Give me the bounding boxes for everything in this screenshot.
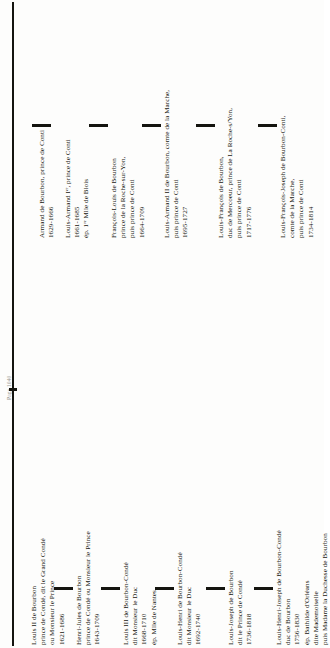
entry-line: 1692-1740	[194, 552, 203, 645]
entry-line: dit Monsieur le Duc	[131, 562, 140, 645]
entry-francois-louis-de-bourbon: François-Louis de Bourbon prince de la R…	[110, 157, 147, 238]
entry-line: Louis-François de Bourbon,	[217, 108, 226, 238]
entry-line: Louis-Armand II de Bourbon, comte de la …	[163, 90, 172, 238]
entry-line: 1661-1685	[73, 139, 82, 238]
entry-armand-de-bourbon: Armand de Bourbon, prince de Conti 1629-…	[38, 130, 56, 238]
connector-conti-2	[89, 124, 108, 127]
entry-line: Louis II de Bourbon	[30, 538, 39, 645]
connector-conti-3	[142, 124, 161, 127]
entry-line: 1664-1709	[138, 157, 147, 238]
entry-louis-henri-joseph-de-bourbon-conde: Louis-Henri-Joseph de Bourbon-Condé duc …	[275, 530, 330, 645]
entry-line: 1629-1666	[47, 130, 56, 238]
entry-line: comte de la Marche,	[288, 116, 297, 238]
entry-line: puis prince de Conti	[128, 157, 137, 238]
entry-line: prince de Condé, dit le Grand Condé	[39, 538, 48, 645]
entry-line: dit Monsieur le Duc	[185, 552, 194, 645]
entry-line: dit le Prince de Condé	[236, 570, 245, 645]
entry-louis-francois-joseph: Louis-François-Joseph de Bourbon-Conti, …	[279, 116, 316, 238]
connector-conti-1	[32, 124, 51, 127]
connector-conde-2	[101, 587, 120, 590]
entry-louis-henri-de-bourbon-conde: Louis-Henri de Bourbon-Condé dit Monsieu…	[176, 552, 204, 645]
entry-line: 1695-1727	[181, 90, 190, 238]
connector-conti-5	[258, 124, 277, 127]
entry-line: ou Monsieur le Prince	[48, 538, 57, 645]
entry-line: 1668-1710	[140, 562, 149, 645]
connector-conde-3	[155, 587, 174, 590]
entry-line: Louis-Henri de Bourbon-Condé	[176, 552, 185, 645]
entry-line: Louis III de Bourbon-Condé	[122, 562, 131, 645]
entry-louis-armand-ii: Louis-Armand II de Bourbon, comte de la …	[163, 90, 191, 238]
tree-spine-stub	[9, 388, 17, 391]
entry-line: François-Louis de Bourbon	[110, 157, 119, 238]
entry-louis-iii-de-bourbon-conde: Louis III de Bourbon-Condé dit Monsieur …	[122, 562, 159, 645]
connector-conti-4	[196, 124, 215, 127]
connector-conde-1	[54, 587, 73, 590]
entry-line: Louis-François-Joseph de Bourbon-Conti,	[279, 116, 288, 238]
entry-henri-jules-de-bourbon: Henri-Jules de Bourbon prince de Condé o…	[75, 531, 103, 645]
entry-line: Henri-Jules de Bourbon	[75, 531, 84, 645]
entry-line: prince de Condé ou Monsieur le Prince	[84, 531, 93, 645]
connector-conde-5	[254, 587, 273, 590]
entry-line: 1734-1814	[307, 116, 316, 238]
entry-line: duc de Mercoeur, prince de La Roche-s/Yo…	[226, 108, 235, 238]
entry-line: duc de Bourbon	[284, 530, 293, 645]
entry-line: dite Mademoiselle	[312, 530, 321, 645]
entry-louis-ii-de-bourbon: Louis II de Bourbon prince de Condé, dit…	[30, 538, 67, 645]
entry-line: Louis-Joseph de Bourbon	[227, 570, 236, 645]
entry-line: 1717-1776	[245, 108, 254, 238]
entry-line: ép. 1ʳᵉ Mlle de Blois	[82, 139, 91, 238]
entry-line: 1756-1830	[293, 530, 302, 645]
entry-line: Louis-Armand Iᵉʳ, prince de Conti	[64, 139, 73, 238]
entry-line: 1736-1818	[245, 570, 254, 645]
entry-line: ép. Mlle de Nantes	[150, 562, 159, 645]
entry-louis-joseph-de-bourbon: Louis-Joseph de Bourbon dit le Prince de…	[227, 570, 255, 645]
entry-line: puis prince de Conti	[235, 108, 244, 238]
entry-louis-armand-i: Louis-Armand Iᵉʳ, prince de Conti 1661-1…	[64, 139, 92, 238]
entry-line: puis prince de Conti	[297, 116, 306, 238]
entry-louis-francois-de-bourbon: Louis-François de Bourbon, duc de Mercoe…	[217, 108, 254, 238]
entry-line: prince de la Roche-sur-Yon,	[119, 157, 128, 238]
entry-line: Armand de Bourbon, prince de Conti	[38, 130, 47, 238]
entry-line: puis Madame la Duchesse de Bourbon	[321, 530, 330, 645]
entry-line: puis prince de Conti	[172, 90, 181, 238]
entry-line: ép. Bathilde d'Orléans	[303, 530, 312, 645]
connector-conde-4	[206, 587, 225, 590]
entry-line: 1621-1686	[58, 538, 67, 645]
tree-spine	[12, 2, 14, 646]
entry-line: Louis-Henri-Joseph de Bourbon-Condé	[275, 530, 284, 645]
